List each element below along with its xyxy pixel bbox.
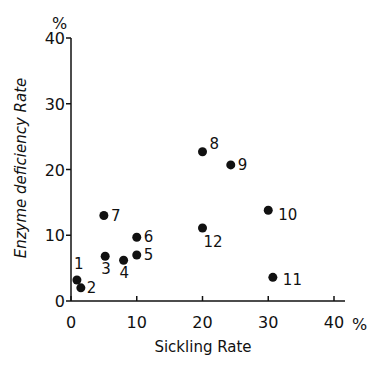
axes	[71, 38, 345, 301]
y-axis-title: Enzyme deficiency Rate	[12, 78, 30, 259]
data-point-label: 11	[283, 271, 302, 289]
scatter-chart: 010203040 010203040 123456789101112 % % …	[0, 0, 388, 370]
data-point-label: 1	[74, 255, 84, 273]
y-tick-label: 30	[45, 95, 65, 114]
data-point-label: 5	[144, 246, 154, 264]
data-point-label: 2	[87, 279, 97, 297]
data-point-marker	[198, 224, 207, 233]
y-tick-label: 10	[45, 226, 65, 245]
y-unit-label: %	[52, 14, 67, 33]
data-point-label: 10	[278, 206, 297, 224]
x-tick-label: 10	[127, 313, 147, 332]
data-point-marker	[132, 233, 141, 242]
data-point-label: 3	[101, 260, 111, 278]
data-point-label: 12	[204, 233, 223, 251]
data-point-label: 7	[111, 207, 121, 225]
y-tick-label: 0	[55, 292, 65, 311]
data-point-label: 9	[238, 156, 248, 174]
y-ticks: 010203040	[45, 29, 71, 311]
data-point-marker	[99, 211, 108, 220]
x-tick-label: 40	[324, 313, 344, 332]
x-tick-label: 0	[66, 313, 76, 332]
x-axis-title: Sickling Rate	[154, 338, 251, 356]
data-point-label: 8	[210, 135, 220, 153]
data-points: 123456789101112	[72, 135, 302, 297]
data-point-marker	[132, 250, 141, 259]
data-point-marker	[76, 283, 85, 292]
y-tick-label: 20	[45, 161, 65, 180]
data-point-label: 4	[120, 264, 130, 282]
x-tick-label: 20	[192, 313, 212, 332]
data-point-marker	[198, 147, 207, 156]
data-point-marker	[72, 275, 81, 284]
data-point-marker	[268, 273, 277, 282]
data-point-marker	[226, 160, 235, 169]
data-point-label: 6	[144, 228, 154, 246]
x-unit-label: %	[352, 315, 367, 334]
x-tick-label: 30	[258, 313, 278, 332]
data-point-marker	[264, 206, 273, 215]
